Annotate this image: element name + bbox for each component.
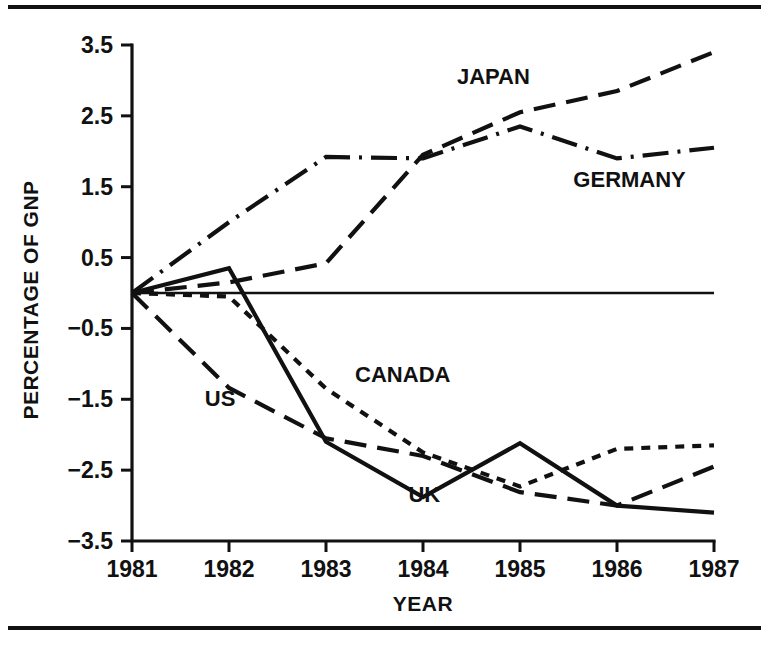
x-tick-label-3: 1984 xyxy=(397,556,448,582)
axes-layer xyxy=(121,45,714,552)
y-tick-labels: 3.52.51.50.5−0.5−1.5−2.5−3.5 xyxy=(68,32,114,554)
series-label-germany: GERMANY xyxy=(573,167,686,192)
y-tick-label-3: 0.5 xyxy=(81,245,113,271)
y-tick-label-6: −2.5 xyxy=(68,457,114,483)
x-tick-label-0: 1981 xyxy=(106,556,157,582)
y-tick-label-2: 1.5 xyxy=(81,174,113,200)
series-label-uk: UK xyxy=(408,482,440,507)
y-axis-title: PERCENTAGE OF GNP xyxy=(19,180,42,419)
y-tick-label-7: −3.5 xyxy=(68,528,114,554)
x-tick-label-6: 1987 xyxy=(688,556,739,582)
line-chart-plot: PERCENTAGE OF GNP YEAR 3.52.51.50.5−0.5−… xyxy=(0,0,769,646)
chart-figure: PERCENTAGE OF GNP YEAR 3.52.51.50.5−0.5−… xyxy=(0,0,769,646)
series-label-japan: JAPAN xyxy=(457,64,530,89)
x-tick-label-1: 1982 xyxy=(203,556,254,582)
y-tick-label-1: 2.5 xyxy=(81,103,113,129)
series-line-germany xyxy=(132,126,714,293)
y-tick-label-0: 3.5 xyxy=(81,32,113,58)
series-labels: JAPANGERMANYCANADAUSUK xyxy=(205,64,686,507)
x-tick-label-4: 1985 xyxy=(494,556,545,582)
x-tick-label-2: 1983 xyxy=(300,556,351,582)
series-label-us: US xyxy=(205,386,236,411)
series-label-canada: CANADA xyxy=(355,362,450,387)
x-axis-title: YEAR xyxy=(393,592,453,615)
y-tick-label-4: −0.5 xyxy=(68,315,114,341)
x-tick-label-5: 1986 xyxy=(591,556,642,582)
series-layer xyxy=(132,52,714,513)
y-tick-label-5: −1.5 xyxy=(68,386,114,412)
x-tick-labels: 1981198219831984198519861987 xyxy=(106,556,739,582)
